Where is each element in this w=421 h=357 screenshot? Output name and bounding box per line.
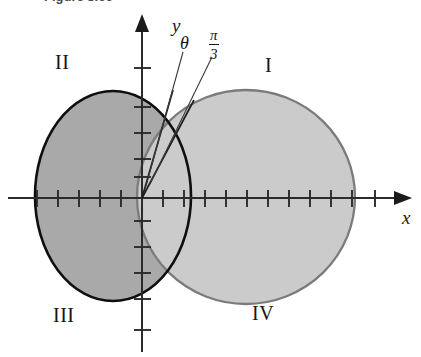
quadrant-label-two: II [55,52,69,72]
arrow-right-icon [394,191,412,205]
pi-over-three-label: π 3 [209,28,219,63]
fraction-bar [209,44,219,45]
fraction-numerator: π [209,28,219,44]
theta-label: θ [180,34,189,52]
quadrant-label-four: IV [252,303,274,323]
fraction-denominator: 3 [209,46,219,62]
figure-caption: Figure 8.66 [44,0,113,4]
x-axis-label: x [402,208,410,227]
quadrant-label-three: III [53,305,74,325]
figure-container: Figure 8.66 y x II I III IV θ π 3 [0,0,421,357]
arrow-up-icon [135,14,149,32]
quadrant-label-one: I [265,55,272,75]
figure-caption-strip: Figure 8.66 [0,0,421,9]
